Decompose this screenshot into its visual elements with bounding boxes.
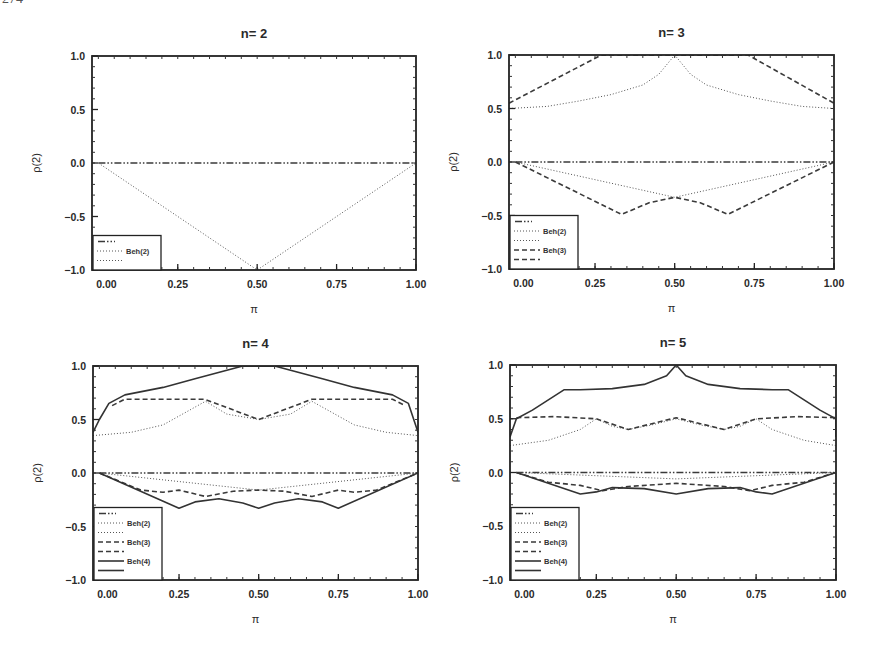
x-tick-label: 0.75 [328, 588, 349, 600]
x-tick-label: 0.50 [247, 278, 268, 290]
y-tick-label: −0.5 [65, 521, 86, 533]
legend: Beh(2)Beh(3) [510, 216, 578, 270]
y-tick-label: 1.0 [487, 49, 502, 61]
series-line [515, 162, 834, 214]
y-tick-label: 0.5 [487, 103, 502, 115]
x-tick-label: 0.00 [96, 278, 117, 290]
x-tick-label: 0.00 [513, 277, 534, 289]
y-tick-label: 0.0 [488, 467, 503, 479]
x-tick-label: 1.00 [408, 588, 429, 600]
y-tick-label: −1.0 [482, 574, 503, 586]
x-tick-label: 0.75 [326, 278, 347, 290]
legend-label: Beh(2) [543, 227, 567, 236]
series-line [510, 365, 836, 437]
legend-label: Beh(4) [127, 557, 151, 566]
legend: Beh(2) [93, 236, 161, 271]
series-line [516, 473, 836, 479]
x-tick-label: 1.00 [406, 278, 427, 290]
subplot-title: n= 2 [241, 26, 267, 41]
y-axis-label: ρ(2) [30, 153, 42, 173]
y-tick-label: 0.0 [70, 157, 85, 169]
x-axis-label: π [250, 303, 258, 315]
legend-label: Beh(2) [544, 519, 568, 528]
x-tick-label: 0.50 [248, 588, 269, 600]
y-tick-label: −0.5 [481, 210, 502, 222]
legend-label: Beh(2) [126, 247, 150, 256]
series-line [99, 473, 418, 497]
subplot-title: n= 3 [658, 25, 684, 40]
legend-label: Beh(4) [544, 557, 568, 566]
legend-label: Beh(3) [544, 538, 568, 547]
y-tick-label: 1.0 [71, 360, 86, 372]
subplot-title: n= 4 [242, 336, 269, 351]
y-tick-label: 0.5 [71, 414, 86, 426]
x-tick-label: 0.50 [664, 277, 685, 289]
x-axis-label: π [252, 613, 260, 625]
y-axis-label: ρ(2) [448, 463, 460, 483]
subplot-title: n= 5 [660, 335, 686, 350]
series-line [99, 473, 418, 490]
x-tick-label: 0.00 [514, 588, 535, 600]
y-tick-label: −0.5 [482, 520, 503, 532]
legend: Beh(2)Beh(3)Beh(4) [94, 508, 162, 581]
series-line [509, 55, 834, 109]
x-tick-label: 1.00 [824, 277, 845, 289]
x-tick-label: 0.00 [97, 588, 118, 600]
subplot-1: n= 21.00.50.0−0.5−1.00.000.250.500.751.0… [30, 26, 426, 315]
y-tick-label: −1.0 [65, 574, 86, 586]
y-tick-label: 0.5 [488, 413, 503, 425]
series-line [510, 419, 836, 446]
y-tick-label: 0.5 [70, 104, 85, 116]
figure-grid: n= 21.00.50.0−0.5−1.00.000.250.500.751.0… [0, 0, 869, 649]
series-line [509, 55, 834, 103]
series-group [510, 365, 836, 494]
subplot-2: n= 31.00.50.0−0.5−1.00.000.250.500.751.0… [447, 25, 844, 314]
subplot-3: n= 41.00.50.0−0.5−1.00.000.250.500.751.0… [31, 336, 428, 625]
legend-label: Beh(3) [543, 246, 567, 255]
y-axis-label: ρ(2) [31, 463, 43, 483]
series-line [112, 399, 405, 419]
x-tick-label: 0.50 [666, 588, 687, 600]
y-tick-label: −1.0 [481, 263, 502, 275]
y-tick-label: −1.0 [64, 264, 85, 276]
series-group [509, 55, 834, 214]
y-axis-label: ρ(2) [447, 152, 459, 172]
legend: Beh(2)Beh(3)Beh(4) [511, 508, 579, 581]
series-line [515, 162, 834, 197]
x-axis-label: π [669, 613, 677, 625]
x-tick-label: 0.75 [744, 277, 765, 289]
y-tick-label: 0.0 [71, 467, 86, 479]
y-tick-label: 1.0 [488, 359, 503, 371]
y-tick-label: −0.5 [64, 211, 85, 223]
x-tick-label: 0.25 [168, 278, 189, 290]
legend-label: Beh(3) [127, 538, 151, 547]
x-tick-label: 0.25 [169, 588, 190, 600]
x-tick-label: 0.25 [586, 588, 607, 600]
y-tick-label: 0.0 [487, 156, 502, 168]
x-tick-label: 0.75 [746, 588, 767, 600]
series-group [93, 366, 418, 508]
subplot-4: n= 51.00.50.0−0.5−1.00.000.250.500.751.0… [448, 335, 846, 625]
x-axis-label: π [668, 302, 676, 314]
x-tick-label: 0.25 [585, 277, 606, 289]
legend-label: Beh(2) [127, 519, 151, 528]
y-tick-label: 1.0 [70, 50, 85, 62]
x-tick-label: 1.00 [826, 588, 847, 600]
